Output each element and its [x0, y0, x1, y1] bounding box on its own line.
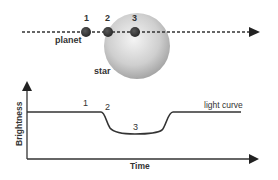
- y-axis-arrowhead-icon: [22, 81, 32, 91]
- curve-point-label-2: 2: [105, 102, 110, 112]
- curve-point-label-1: 1: [83, 98, 88, 108]
- planet-position-2: [103, 27, 113, 37]
- planet-position-3: [130, 27, 140, 37]
- light-curve-label: light curve: [204, 100, 243, 110]
- path-arrowhead-icon: [249, 27, 260, 37]
- star-label: star: [94, 66, 111, 76]
- position-label-1: 1: [84, 13, 89, 23]
- y-axis-label: Brightness: [14, 101, 24, 146]
- position-label-2: 2: [105, 13, 110, 23]
- position-label-3: 3: [132, 13, 137, 23]
- x-axis-arrowhead-icon: [249, 154, 259, 164]
- planet-position-1: [81, 27, 91, 37]
- x-axis-label: Time: [130, 161, 150, 171]
- planet-label: planet: [55, 35, 82, 45]
- transit-diagram: 1 2 3 planet star 1 2 3 light curve Brig…: [0, 0, 278, 180]
- curve-point-label-3: 3: [133, 122, 138, 132]
